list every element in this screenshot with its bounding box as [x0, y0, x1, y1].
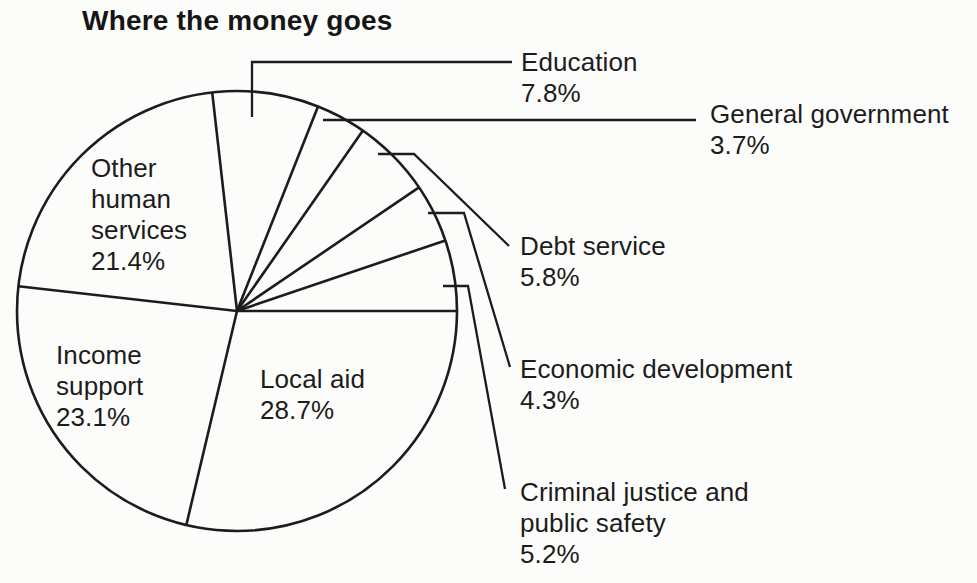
slice-boundary: [237, 106, 318, 311]
slice-label: Incomesupport23.1%: [56, 340, 143, 433]
slice-percent: 7.8%: [521, 78, 638, 109]
slice-boundary: [18, 286, 237, 311]
slice-label-line: human: [91, 184, 187, 215]
slice-boundary: [237, 240, 445, 311]
slice-label: General government3.7%: [710, 99, 949, 161]
slice-label-line: public safety: [520, 508, 749, 539]
slice-percent: 5.8%: [520, 262, 666, 293]
slice-percent: 23.1%: [56, 402, 143, 433]
slice-percent: 28.7%: [260, 395, 365, 426]
slice-boundary: [237, 187, 419, 311]
slice-label-line: Economic development: [520, 354, 792, 385]
slice-percent: 21.4%: [91, 246, 187, 277]
slice-label-line: Debt service: [520, 231, 666, 262]
slice-percent: 4.3%: [520, 385, 792, 416]
slice-label: Local aid28.7%: [260, 364, 365, 426]
slice-label-line: Other: [91, 153, 187, 184]
leader-line: [252, 62, 512, 117]
slice-label: Debt service5.8%: [520, 231, 666, 293]
pie-chart: [0, 0, 977, 583]
slice-label-line: support: [56, 371, 143, 402]
pie-chart-figure: Where the money goes Education7.8%Genera…: [0, 0, 977, 583]
slice-label-line: Income: [56, 340, 143, 371]
slice-label: Otherhumanservices21.4%: [91, 153, 187, 277]
slice-label-line: Local aid: [260, 364, 365, 395]
slice-boundary: [212, 92, 237, 311]
slice-label-line: services: [91, 215, 187, 246]
slice-label-line: Criminal justice and: [520, 477, 749, 508]
slice-label-line: Education: [521, 47, 638, 78]
slice-boundary: [186, 311, 237, 525]
slice-label: Criminal justice andpublic safety5.2%: [520, 477, 749, 570]
slice-label-line: General government: [710, 99, 949, 130]
slice-percent: 3.7%: [710, 130, 949, 161]
slice-label: Education7.8%: [521, 47, 638, 109]
slice-label: Economic development4.3%: [520, 354, 792, 416]
slice-percent: 5.2%: [520, 539, 749, 570]
slice-boundary: [237, 131, 363, 311]
